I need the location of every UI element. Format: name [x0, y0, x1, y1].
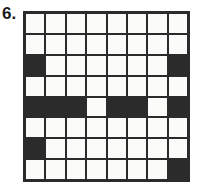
grid-cell	[25, 76, 45, 97]
grid-cell	[86, 97, 106, 118]
grid-cell	[127, 97, 147, 118]
grid-cell	[168, 97, 188, 118]
grid-cell	[127, 34, 147, 55]
puzzle-figure: 6.	[0, 0, 200, 194]
grid-cell	[147, 55, 167, 76]
grid-cell	[86, 76, 106, 97]
grid-cell	[66, 97, 86, 118]
grid-cell	[107, 97, 127, 118]
grid-cell	[25, 13, 45, 34]
grid-cell	[168, 159, 188, 180]
grid-cell	[66, 159, 86, 180]
grid-cell	[25, 55, 45, 76]
grid-cell	[25, 34, 45, 55]
grid-cell	[45, 34, 65, 55]
grid-cell	[147, 159, 167, 180]
grid-cell	[45, 117, 65, 138]
grid-cell	[168, 76, 188, 97]
grid-cell	[66, 55, 86, 76]
pattern-grid	[23, 11, 190, 182]
grid-cell	[86, 55, 106, 76]
grid-cell	[107, 55, 127, 76]
grid-cell	[86, 13, 106, 34]
grid-cell	[147, 117, 167, 138]
grid-cell	[45, 76, 65, 97]
grid-cell	[25, 97, 45, 118]
grid-cell	[45, 138, 65, 159]
grid-cell	[127, 55, 147, 76]
grid-cell	[45, 13, 65, 34]
grid-cell	[107, 138, 127, 159]
grid-cell	[86, 34, 106, 55]
grid-cell	[168, 13, 188, 34]
grid-cell	[127, 117, 147, 138]
grid-cell	[168, 117, 188, 138]
grid-cell	[86, 138, 106, 159]
grid-cell	[127, 138, 147, 159]
grid-cell	[45, 55, 65, 76]
grid-cell	[127, 13, 147, 34]
grid-cell	[107, 13, 127, 34]
grid-cell	[168, 55, 188, 76]
grid-cell	[147, 13, 167, 34]
grid-cell	[66, 34, 86, 55]
grid-cell	[66, 138, 86, 159]
grid-cell	[66, 76, 86, 97]
grid-cell	[66, 117, 86, 138]
grid-cell	[168, 34, 188, 55]
grid-cell	[86, 117, 106, 138]
grid-cell	[107, 34, 127, 55]
grid-cell	[147, 34, 167, 55]
grid-cell	[107, 159, 127, 180]
grid-cell	[25, 117, 45, 138]
grid-cell	[86, 159, 106, 180]
grid-cell	[45, 97, 65, 118]
grid-cell	[66, 13, 86, 34]
problem-number-label: 6.	[2, 4, 16, 24]
grid-cell	[25, 138, 45, 159]
grid-cell	[107, 76, 127, 97]
grid-cell	[45, 159, 65, 180]
grid-cell	[127, 159, 147, 180]
grid-cell	[147, 76, 167, 97]
grid-cell	[25, 159, 45, 180]
grid-cell	[147, 97, 167, 118]
grid-cell	[107, 117, 127, 138]
grid-cell	[127, 76, 147, 97]
grid-cell	[147, 138, 167, 159]
grid-cell	[168, 138, 188, 159]
